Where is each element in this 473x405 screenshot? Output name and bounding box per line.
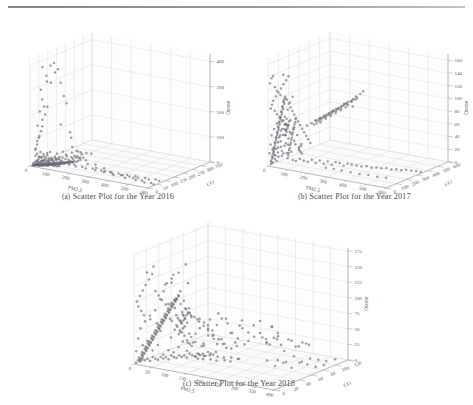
svg-text:CO: CO [444,179,453,187]
caption-text-c: Scatter Plot for the Year 2018 [194,379,295,388]
svg-text:Ozone: Ozone [225,100,231,115]
svg-text:160: 160 [455,58,463,63]
svg-text:200: 200 [217,110,225,115]
scatter-plot-svg-2016: 0100200300400500600050100150200250300350… [0,14,236,210]
svg-text:150: 150 [179,177,188,185]
svg-text:0: 0 [282,391,287,397]
svg-text:400: 400 [101,182,110,189]
caption-label-a: (a) [62,193,70,201]
svg-text:100: 100 [170,180,179,188]
svg-text:0: 0 [128,366,132,372]
svg-text:125: 125 [355,280,363,285]
svg-text:200: 200 [299,175,308,182]
svg-text:400: 400 [266,392,275,399]
svg-text:250: 250 [197,169,206,177]
caption-text-a: Scatter Plot for the Year 2016 [73,192,174,201]
svg-text:300: 300 [421,175,430,183]
svg-text:350: 350 [248,388,257,395]
scatter-plot-svg-2017: 0100200300400500600010020030040050060002… [236,14,473,210]
svg-text:100: 100 [280,171,289,178]
svg-text:400: 400 [217,59,225,64]
caption-2018: (c) Scatter Plot for the Year 2018 [104,379,374,388]
svg-text:100: 100 [341,365,350,373]
svg-text:150: 150 [355,265,363,270]
svg-text:50: 50 [355,327,361,332]
svg-text:500: 500 [442,166,451,174]
svg-text:50: 50 [162,185,169,192]
scatter-panel-2018: 0501001502002503003504000204060801001200… [104,212,374,405]
svg-text:75: 75 [355,311,361,316]
svg-text:400: 400 [432,171,441,179]
svg-text:80: 80 [330,371,337,378]
caption-2017: (b) Scatter Plot for the Year 2017 [236,192,473,201]
svg-text:80: 80 [455,109,461,114]
svg-text:Ozone: Ozone [363,296,369,311]
scatter-panel-2016: 0100200300400500600050100150200250300350… [0,14,236,210]
svg-text:20: 20 [455,147,461,152]
svg-text:100: 100 [355,296,363,301]
svg-text:120: 120 [455,84,463,89]
svg-text:200: 200 [411,179,420,187]
svg-text:0: 0 [262,168,266,174]
caption-2016: (a) Scatter Plot for the Year 2016 [0,192,236,201]
svg-text:100: 100 [401,184,410,192]
page-top-rule [8,6,465,8]
svg-text:Ozone: Ozone [463,100,469,115]
svg-text:25: 25 [355,342,361,347]
svg-text:300: 300 [217,85,225,90]
svg-text:CO: CO [206,179,215,187]
svg-text:100: 100 [42,171,51,178]
svg-text:100: 100 [217,135,225,140]
svg-text:175: 175 [355,249,363,254]
caption-label-b: (b) [298,193,307,201]
caption-label-c: (c) [183,380,191,388]
scatter-panel-2017: 0100200300400500600010020030040050060002… [236,14,473,210]
svg-text:300: 300 [81,178,90,185]
figure-page: 0100200300400500600050100150200250300350… [0,0,473,405]
scatter-plot-svg-2018: 0501001502002503003504000204060801001200… [104,212,374,405]
svg-text:50: 50 [144,369,151,375]
axes-panes [134,222,348,390]
svg-text:300: 300 [206,166,215,174]
svg-text:0: 0 [24,168,28,174]
svg-text:300: 300 [319,178,328,185]
svg-text:200: 200 [188,173,197,181]
svg-text:40: 40 [455,134,461,139]
svg-text:140: 140 [455,71,463,76]
svg-text:100: 100 [455,96,463,101]
caption-text-b: Scatter Plot for the Year 2017 [309,192,410,201]
svg-text:400: 400 [339,182,348,189]
svg-text:100: 100 [161,372,170,379]
svg-text:60: 60 [455,122,461,127]
svg-text:200: 200 [61,175,70,182]
